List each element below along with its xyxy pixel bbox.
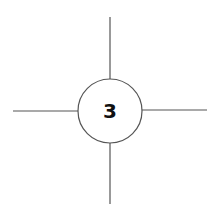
- node-diagram: 3: [0, 0, 219, 217]
- node-label: 3: [103, 99, 117, 123]
